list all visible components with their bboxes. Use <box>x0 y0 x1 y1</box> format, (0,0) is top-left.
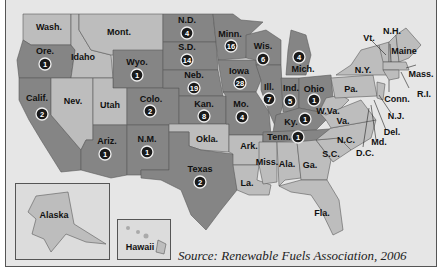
label-utah: Utah <box>100 100 120 110</box>
label-sd: S.D. <box>178 42 196 52</box>
badge-wis: 6 <box>257 53 269 65</box>
badge-minn: 16 <box>225 40 237 52</box>
svg-text:2: 2 <box>198 178 202 187</box>
badge-mich: 4 <box>293 51 305 63</box>
label-sc: S.C. <box>322 149 340 159</box>
label-fla: Fla. <box>314 208 330 218</box>
label-nj: N.J. <box>388 111 405 121</box>
label-ala: Ala. <box>279 159 296 169</box>
badge-wyo: 1 <box>131 69 143 81</box>
label-mass: Mass. <box>408 69 433 79</box>
svg-text:16: 16 <box>227 42 235 51</box>
svg-text:1: 1 <box>296 133 300 142</box>
badge-nd: 4 <box>181 27 193 39</box>
label-ill: Ill. <box>264 82 274 92</box>
label-nd: N.D. <box>178 15 196 25</box>
label-nc: N.C. <box>337 135 355 145</box>
svg-text:1: 1 <box>145 148 149 157</box>
badge-kan: 8 <box>198 110 210 122</box>
badge-neb: 19 <box>188 82 200 94</box>
map-frame: Wash. Ore. Calif. Idaho Nev. Mont. Wyo. … <box>5 0 437 267</box>
label-nh: N.H. <box>383 26 401 36</box>
alaska-shape: Alaska <box>16 184 109 259</box>
badge-ind: 5 <box>284 95 296 107</box>
badge-ill: 7 <box>263 93 275 105</box>
label-colo: Colo. <box>140 94 163 104</box>
label-wash: Wash. <box>36 22 62 32</box>
label-maine: Maine <box>391 46 417 56</box>
label-ri: R.I. <box>417 89 431 99</box>
badge-calif: 2 <box>36 108 48 120</box>
badge-colo: 2 <box>144 105 156 117</box>
label-okla: Okla. <box>196 134 218 144</box>
label-miss: Miss. <box>256 157 279 167</box>
label-mich: Mich. <box>291 64 314 74</box>
state-mass <box>383 62 409 70</box>
label-wva: W.Va. <box>316 106 340 116</box>
label-wis: Wis. <box>254 41 272 51</box>
badge-ky: 1 <box>299 113 311 125</box>
label-ga: Ga. <box>303 160 318 170</box>
label-iowa: Iowa <box>229 66 250 76</box>
svg-text:2: 2 <box>40 110 44 119</box>
badge-sd: 14 <box>181 54 193 66</box>
label-ind: Ind. <box>283 83 299 93</box>
badge-ore: 1 <box>39 58 51 70</box>
svg-text:8: 8 <box>202 112 206 121</box>
svg-text:28: 28 <box>236 79 244 88</box>
label-mo: Mo. <box>233 99 249 109</box>
svg-text:2: 2 <box>148 107 152 116</box>
label-calif: Calif. <box>26 93 48 103</box>
label-dc: D.C. <box>356 148 374 158</box>
label-vt: Vt. <box>363 33 375 43</box>
badge-texas: 2 <box>194 176 206 188</box>
label-conn: Conn. <box>384 94 410 104</box>
label-tenn: Tenn. <box>267 132 290 142</box>
label-la: La. <box>240 178 253 188</box>
label-neb: Neb. <box>184 70 204 80</box>
badge-nm: 1 <box>141 146 153 158</box>
label-minn: Minn. <box>218 29 242 39</box>
badge-tenn: 1 <box>292 131 304 143</box>
state-fla <box>279 180 343 235</box>
label-md: Md. <box>371 137 387 147</box>
hawaii-shape: Hawaii <box>118 220 170 259</box>
label-va: Va. <box>336 116 349 126</box>
label-pa: Pa. <box>344 84 358 94</box>
hawaii-inset: Hawaii <box>117 219 171 260</box>
svg-text:1: 1 <box>43 60 47 69</box>
label-nev: Nev. <box>64 96 82 106</box>
svg-text:19: 19 <box>190 84 198 93</box>
label-wyo: Wyo. <box>126 57 147 67</box>
badge-iowa: 28 <box>234 77 246 89</box>
label-ny: N.Y. <box>355 65 372 75</box>
label-texas: Texas <box>188 164 213 174</box>
svg-text:1: 1 <box>135 71 139 80</box>
svg-text:5: 5 <box>288 97 292 106</box>
label-mont: Mont. <box>107 27 131 37</box>
badge-ohio: 1 <box>308 94 320 106</box>
label-ky: Ky. <box>284 117 297 127</box>
label-del: Del. <box>384 127 401 137</box>
label-kan: Kan. <box>194 99 214 109</box>
svg-text:1: 1 <box>312 96 316 105</box>
label-nm: N.M. <box>138 134 157 144</box>
alaska-inset: Alaska <box>15 183 110 260</box>
badge-ariz: 1 <box>99 148 111 160</box>
source-caption: Source: Renewable Fuels Association, 200… <box>178 248 407 264</box>
svg-text:7: 7 <box>267 95 271 104</box>
label-ore: Ore. <box>36 46 54 56</box>
label-ariz: Ariz. <box>97 136 117 146</box>
label-ohio: Ohio <box>304 84 325 94</box>
svg-text:6: 6 <box>261 55 265 64</box>
label-alaska: Alaska <box>39 210 69 220</box>
svg-text:1: 1 <box>303 115 307 124</box>
badge-mo: 4 <box>236 111 248 123</box>
label-hawaii: Hawaii <box>126 242 155 252</box>
svg-text:1: 1 <box>103 150 107 159</box>
label-ark: Ark. <box>240 141 258 151</box>
svg-text:14: 14 <box>183 56 192 65</box>
label-idaho: Idaho <box>71 52 96 62</box>
